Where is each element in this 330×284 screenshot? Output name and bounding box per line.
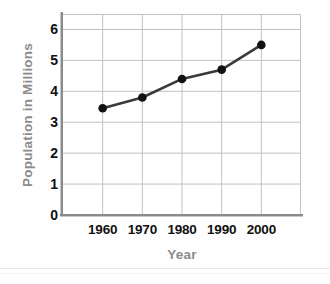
x-axis-tick-label: 1960 (88, 222, 117, 237)
x-axis-tick-label: 1970 (128, 222, 157, 237)
x-axis-spine (60, 214, 303, 217)
page-divider-secondary (0, 273, 330, 274)
data-point-marker (138, 93, 147, 102)
page-divider (0, 268, 330, 269)
y-axis-tick-label: 3 (36, 115, 58, 129)
data-point-marker (257, 41, 266, 50)
x-axis-tick-label: 1990 (207, 222, 236, 237)
data-point-marker (217, 65, 226, 74)
chart-figure: Population in Millions 0123456 196019701… (0, 0, 330, 284)
data-point-marker (178, 75, 187, 84)
data-point-marker (98, 104, 107, 113)
x-axis-tick-labels: 19601970198019902000 (0, 222, 330, 242)
x-axis-tick-label: 2000 (247, 222, 276, 237)
y-axis-tick-label: 4 (36, 84, 58, 98)
x-axis-title: Year (63, 247, 301, 262)
y-axis-spine (60, 12, 63, 217)
y-axis-tick-label: 5 (36, 53, 58, 67)
plot-area (63, 14, 301, 215)
x-axis-tick-label: 1980 (167, 222, 196, 237)
y-axis-tick-label: 0 (36, 208, 58, 222)
data-series-population (63, 14, 301, 215)
y-axis-tick-label: 2 (36, 146, 58, 160)
y-axis-tick-label: 6 (36, 22, 58, 36)
y-axis-tick-label: 1 (36, 177, 58, 191)
